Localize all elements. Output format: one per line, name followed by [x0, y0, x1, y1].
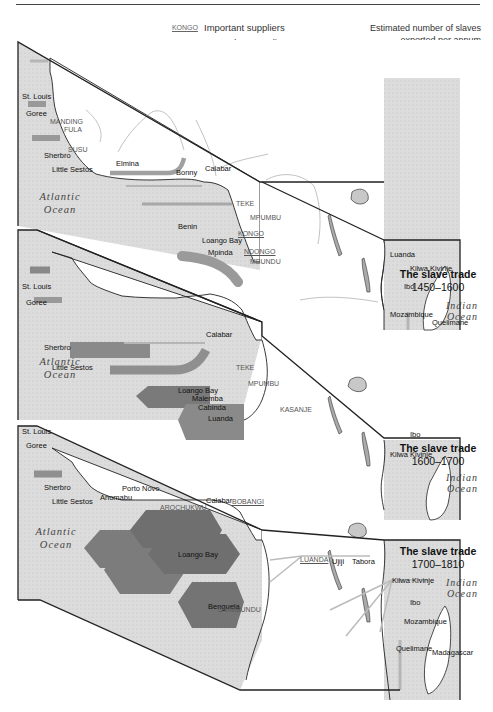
- people-mpumbu: MPUMBU: [248, 380, 279, 387]
- place-little-sestos: Little Sestos: [52, 363, 93, 372]
- people-ndongo: NDONGO: [244, 248, 276, 255]
- people-ovimbundu: OVIMBUNDU: [218, 606, 261, 613]
- panel-years: 1450–1600: [388, 281, 488, 294]
- place-cabinda: Cabinda: [198, 403, 226, 412]
- place-mpinda: Loango Bay: [202, 236, 242, 245]
- place-mozambique: Ibo: [404, 282, 414, 291]
- place-elmina: Elmina: [116, 159, 139, 168]
- place-st-louis: St. Louis: [22, 427, 51, 436]
- place-loango-bay: Benin: [178, 222, 197, 231]
- place-quelimane: Mozambique: [390, 310, 433, 319]
- people-kongo: KONGO: [238, 230, 264, 237]
- place-ujiji: Ujiji: [332, 557, 344, 566]
- ocean-word: Ocean: [30, 203, 90, 216]
- indian-ocean-label: Indian Ocean: [430, 472, 478, 494]
- place-kilwa: Kilwa Kivinje: [392, 576, 434, 585]
- ocean-word: Indian: [430, 300, 478, 311]
- place-kilwa: Luanda: [390, 250, 415, 259]
- ocean-word: Indian: [430, 577, 478, 588]
- place-st-louis: St. Louis: [22, 282, 51, 291]
- people-kasanje: KASANJE: [280, 406, 312, 413]
- people-manding: MANDING: [50, 118, 83, 125]
- people-susu: SUSU: [68, 146, 87, 153]
- people-teke: TEKE: [236, 200, 254, 207]
- place-loango-bay: Loango Bay: [178, 550, 218, 559]
- place-bonny: Bonny: [176, 168, 197, 177]
- place-ibo: Kilwa Kivinje: [410, 264, 452, 273]
- place-tabora: Tabora: [352, 557, 375, 566]
- place-goree: Goree: [26, 298, 47, 307]
- place-luanda: Mpinda: [208, 248, 233, 257]
- people-arochukwu: AROCHUKWU: [160, 504, 207, 511]
- ocean-word: Ocean: [430, 588, 478, 599]
- ocean-word: Atlantic: [30, 190, 90, 203]
- panel-title-text: The slave trade: [388, 545, 488, 558]
- place-little-sestos: Little Sestos: [52, 497, 93, 506]
- place-st-louis: St. Louis: [22, 92, 51, 101]
- place-luanda: Luanda: [208, 414, 233, 423]
- place-goree: Goree: [26, 109, 47, 118]
- place-goree: Goree: [26, 441, 47, 450]
- place-mozambique: Mozambique: [404, 617, 447, 626]
- people-teke: TEKE: [236, 364, 254, 371]
- place-sherbro: Sherbro: [44, 343, 71, 352]
- panel-title-1700-1810: The slave trade 1700–1810: [388, 545, 488, 571]
- atlantic-ocean-label: Atlantic Ocean: [26, 525, 86, 551]
- people-luanda: LUANDA: [300, 556, 328, 563]
- place-sherbro: Sherbro: [44, 483, 71, 492]
- people-bobangi: BOBANGI: [232, 498, 264, 505]
- place-porto-novo: Porto Novo: [122, 484, 160, 493]
- place-sherbro: Sherbro: [44, 151, 71, 160]
- people-mpumbu: MPUMBU: [250, 214, 281, 221]
- place-malemba: Malemba: [192, 394, 223, 403]
- place-calabar: Calabar: [205, 164, 231, 173]
- ocean-word: Atlantic: [26, 525, 86, 538]
- people-mbundu: MBUNDU: [250, 258, 281, 265]
- place-calabar: Calabar: [206, 330, 232, 339]
- place-madagascar: Madagascar: [432, 648, 473, 657]
- place-little-sestos: Little Sestos: [52, 165, 93, 174]
- place-anomabu: Anomabu: [100, 493, 132, 502]
- indian-ocean-label: Indian Ocean: [430, 577, 478, 599]
- place-ibo: Ibo: [410, 430, 420, 439]
- place-calabar: Calabar: [206, 496, 232, 505]
- panel-years: 1700–1810: [388, 558, 488, 571]
- ocean-word: Ocean: [26, 538, 86, 551]
- place-ibo: Ibo: [410, 598, 420, 607]
- ocean-word: Indian: [430, 472, 478, 483]
- atlantic-ocean-label: Atlantic Ocean: [30, 190, 90, 216]
- people-fula: FULA: [64, 126, 82, 133]
- place-madagascar: Quelimane: [432, 318, 468, 327]
- place-kilwa: Kilwa Kivinje: [390, 450, 432, 459]
- ocean-word: Ocean: [430, 483, 478, 494]
- place-quelimane: Quelimane: [396, 644, 432, 653]
